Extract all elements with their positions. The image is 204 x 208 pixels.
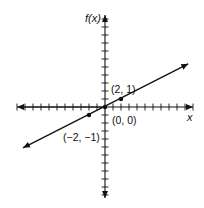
x-axis-label: x (186, 111, 193, 123)
point-label-neg2-neg1: (−2, −1) (63, 131, 100, 143)
point-label-origin: (0, 0) (112, 114, 137, 126)
coordinate-plane: f(x) x (2, 1) (0, 0) (−2, −1) (0, 0, 204, 208)
data-point (103, 105, 107, 109)
y-axis-label: f(x) (85, 12, 101, 24)
point-label-2-1: (2, 1) (111, 83, 136, 95)
data-point (87, 113, 91, 117)
data-point (119, 97, 123, 101)
